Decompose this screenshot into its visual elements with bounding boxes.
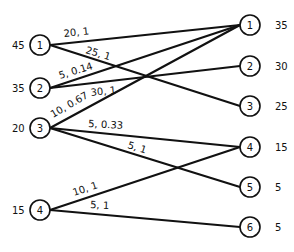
edge-s3-t1 xyxy=(50,25,240,128)
edge-label-s4-t6: 5, 1 xyxy=(90,199,110,211)
sink-node-4: 4 15 xyxy=(240,137,288,157)
sink-nodes: 1 35 2 30 3 25 4 15 5 5 6 5 xyxy=(240,15,288,237)
source-node-4-supply: 15 xyxy=(12,205,25,216)
source-node-4: 4 15 xyxy=(12,200,50,220)
sink-node-2-demand: 30 xyxy=(275,61,288,72)
sink-node-6-demand: 5 xyxy=(275,222,281,233)
edge-label-s1-t1: 20, 1 xyxy=(63,25,89,39)
source-nodes: 1 45 2 35 3 20 4 15 xyxy=(12,35,50,220)
edge-label-s3-t1: 10, 0.67 xyxy=(49,90,90,120)
edge-s4-t6 xyxy=(50,210,240,227)
source-node-2-id: 2 xyxy=(37,83,43,94)
source-node-1: 1 45 xyxy=(12,35,50,55)
sink-node-1-demand: 35 xyxy=(275,20,288,31)
source-node-2-supply: 35 xyxy=(12,83,25,94)
source-node-1-id: 1 xyxy=(37,40,43,51)
source-node-1-supply: 45 xyxy=(12,40,25,51)
edge-label-s2-t1: 30, 1 xyxy=(90,84,116,98)
edge-label-s3-t4: 5, 0.33 xyxy=(88,118,124,131)
sink-node-5: 5 5 xyxy=(240,177,281,197)
transportation-network-diagram: 20, 1 25, 1 5, 0.14 30, 1 10, 0.67 5, 0.… xyxy=(0,0,294,252)
sink-node-1: 1 35 xyxy=(240,15,288,35)
sink-node-2-id: 2 xyxy=(247,61,253,72)
sink-node-6-id: 6 xyxy=(247,222,253,233)
sink-node-6: 6 5 xyxy=(240,217,281,237)
sink-node-1-id: 1 xyxy=(247,20,253,31)
source-node-4-id: 4 xyxy=(37,205,43,216)
sink-node-3-demand: 25 xyxy=(275,101,288,112)
edge-label-s2-t2: 5, 0.14 xyxy=(57,60,94,81)
edges xyxy=(50,25,240,227)
source-node-3-supply: 20 xyxy=(12,123,25,134)
sink-node-4-id: 4 xyxy=(247,142,253,153)
source-node-3-id: 3 xyxy=(37,123,43,134)
sink-node-3-id: 3 xyxy=(247,101,253,112)
sink-node-4-demand: 15 xyxy=(275,142,288,153)
sink-node-5-id: 5 xyxy=(247,182,253,193)
source-node-2: 2 35 xyxy=(12,78,50,98)
source-node-3: 3 20 xyxy=(12,118,50,138)
sink-node-5-demand: 5 xyxy=(275,182,281,193)
sink-node-2: 2 30 xyxy=(240,56,288,76)
sink-node-3: 3 25 xyxy=(240,96,288,116)
